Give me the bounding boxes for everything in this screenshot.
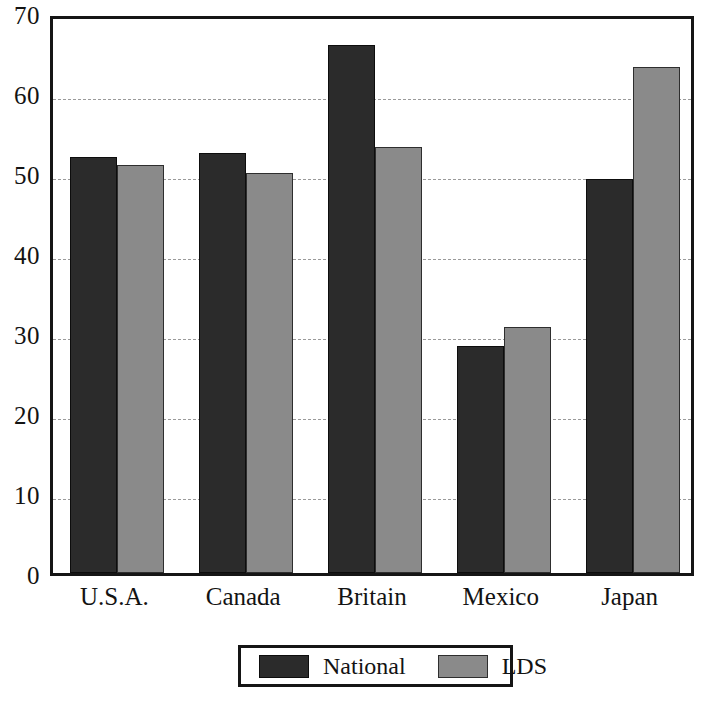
- x-tick-label-japan: Japan: [565, 582, 694, 612]
- y-tick-label-70: 70: [0, 3, 40, 28]
- bar-mexico-lds: [504, 327, 551, 573]
- legend-swatch-lds: [438, 655, 488, 678]
- bar-japan-national: [586, 179, 633, 573]
- y-tick-label-30: 30: [0, 323, 40, 348]
- x-axis: U.S.A.CanadaBritainMexicoJapan: [50, 582, 694, 616]
- legend-label-lds: LDS: [502, 654, 547, 678]
- plot-inner: [53, 19, 691, 573]
- bar-usa-national: [70, 157, 117, 573]
- bar-canada-lds: [246, 173, 293, 573]
- bar-chart: 010203040506070 U.S.A.CanadaBritainMexic…: [0, 0, 713, 715]
- bar-mexico-national: [457, 346, 504, 573]
- bar-japan-lds: [633, 67, 680, 573]
- legend-label-national: National: [323, 654, 406, 678]
- bar-britain-national: [328, 45, 375, 573]
- y-tick-label-20: 20: [0, 403, 40, 428]
- bar-canada-national: [199, 153, 246, 573]
- x-tick-label-usa: U.S.A.: [50, 582, 179, 612]
- y-axis: 010203040506070: [0, 16, 40, 576]
- x-tick-label-mexico: Mexico: [436, 582, 565, 612]
- legend-swatch-national: [259, 655, 309, 678]
- bar-usa-lds: [117, 165, 164, 573]
- y-tick-label-60: 60: [0, 83, 40, 108]
- y-tick-label-40: 40: [0, 243, 40, 268]
- legend-entry-national: National: [259, 654, 406, 678]
- y-tick-label-10: 10: [0, 483, 40, 508]
- x-tick-label-canada: Canada: [179, 582, 308, 612]
- bar-britain-lds: [375, 147, 422, 573]
- chart-legend: National LDS: [238, 645, 513, 687]
- legend-entry-lds: LDS: [438, 654, 547, 678]
- y-tick-label-50: 50: [0, 163, 40, 188]
- plot-area: [50, 16, 694, 576]
- x-tick-label-britain: Britain: [308, 582, 437, 612]
- y-tick-label-0: 0: [0, 563, 40, 588]
